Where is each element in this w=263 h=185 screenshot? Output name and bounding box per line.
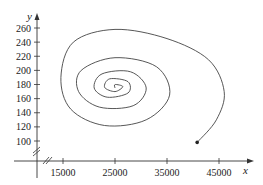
y-tick-label: 100 [16,136,31,147]
y-tick-label: 220 [16,51,31,62]
x-tick-label: 35000 [155,167,180,178]
phase-plane-chart: 15000250003500045000 1001201401601802002… [0,0,263,185]
y-ticks: 100120140160180200220240260 [16,23,40,147]
y-tick-label: 120 [16,121,31,132]
y-tick-label: 140 [16,107,31,118]
x-tick-label: 15000 [51,167,76,178]
x-tick-label: 25000 [103,167,128,178]
axes: 15000250003500045000 1001201401601802002… [14,10,254,178]
y-tick-label: 240 [16,37,31,48]
y-axis-arrow-icon [35,13,40,20]
y-tick-label: 260 [16,23,31,34]
x-tick-label: 45000 [207,167,232,178]
y-tick-label: 160 [16,93,31,104]
x-axis-break-icon [43,157,52,164]
y-tick-label: 180 [16,79,31,90]
y-axis-break-icon [33,147,40,156]
x-axis-arrow-icon [247,159,254,164]
x-axis-label: x [242,164,248,176]
start-point-marker [195,141,199,145]
trajectory-curve [61,29,225,142]
y-tick-label: 200 [16,65,31,76]
y-axis-label: y [26,10,32,22]
